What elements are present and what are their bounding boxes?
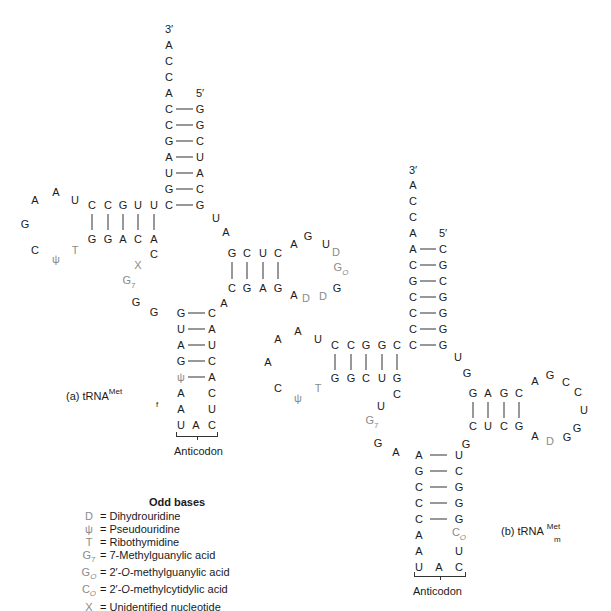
anticodon-loop-base: U bbox=[415, 562, 423, 573]
acceptor-stem-base: C bbox=[165, 200, 173, 211]
five-prime-label: 5′ bbox=[196, 88, 204, 99]
d-arm-base: U bbox=[259, 248, 267, 259]
variable-loop-base: X bbox=[134, 260, 141, 271]
legend-item: G7 = 7-Methylguanylic acid bbox=[78, 549, 252, 566]
d-loop-base: D bbox=[546, 436, 554, 447]
acceptor-stem-base: C bbox=[439, 244, 447, 255]
d-loop-base: U bbox=[580, 405, 588, 416]
t-loop-base: C bbox=[31, 245, 39, 256]
t-loop-base: U bbox=[314, 334, 322, 345]
acceptor-stem-base: G bbox=[196, 104, 205, 115]
anticodon-stem-base: G bbox=[455, 514, 464, 525]
anticodon-stem-base: G bbox=[455, 498, 464, 509]
acceptor-unpaired: C bbox=[409, 212, 417, 223]
t-arm-base: U bbox=[150, 200, 158, 211]
t-arm-base: G bbox=[88, 234, 97, 245]
acceptor-stem-base: C bbox=[409, 340, 417, 351]
anticodon-stem-base: U bbox=[177, 324, 185, 335]
d-arm-base: C bbox=[228, 283, 236, 294]
variable-loop-base: G bbox=[132, 297, 141, 308]
anticodon-stem-base: U bbox=[455, 450, 463, 461]
d-arm-base: C bbox=[243, 248, 251, 259]
legend-item: ψ = Pseudouridine bbox=[78, 523, 252, 536]
acceptor-stem-base: C bbox=[409, 292, 417, 303]
connector-base: A bbox=[222, 227, 229, 238]
acceptor-stem-base: C bbox=[196, 184, 204, 195]
d-loop-base: D bbox=[302, 293, 310, 304]
t-arm-base: C bbox=[362, 373, 370, 384]
legend-item: X = Unidentified nucleotide bbox=[78, 601, 252, 611]
d-arm-base: G bbox=[515, 421, 524, 432]
t-loop-base: A bbox=[264, 357, 271, 368]
acceptor-unpaired: A bbox=[165, 88, 172, 99]
anticodon-label-b: Anticodon bbox=[413, 585, 462, 597]
t-arm-base: G bbox=[378, 340, 387, 351]
t-arm-base: C bbox=[104, 200, 112, 211]
base-pair-bond bbox=[504, 402, 505, 418]
anticodon-loop-base: U bbox=[208, 404, 216, 415]
base-pair-bond bbox=[335, 354, 336, 370]
acceptor-stem-base: A bbox=[409, 244, 416, 255]
anticodon-bracket-b bbox=[414, 572, 466, 577]
t-arm-base: A bbox=[119, 234, 126, 245]
variable-loop-base: A bbox=[392, 447, 399, 458]
d-loop-base: U bbox=[322, 239, 330, 250]
t-loop-base: U bbox=[71, 195, 79, 206]
base-pair-bond bbox=[188, 377, 205, 378]
t-arm-base: C bbox=[134, 234, 142, 245]
trna-b-label-sup: Met bbox=[547, 522, 560, 531]
d-loop-base: G bbox=[333, 283, 342, 294]
t-arm-base: C bbox=[331, 340, 339, 351]
acceptor-unpaired: A bbox=[165, 40, 172, 51]
base-pair-bond bbox=[420, 265, 436, 266]
t-loop-base: A bbox=[294, 326, 301, 337]
legend-description: = 7-Methylguanylic acid bbox=[100, 549, 215, 566]
base-pair-bond bbox=[430, 455, 447, 456]
d-arm-base: G bbox=[243, 283, 252, 294]
anticodon-stem-base: G bbox=[177, 308, 186, 319]
anticodon-loop-base: C bbox=[208, 420, 216, 431]
anticodon-stem-base: A bbox=[208, 324, 215, 335]
d-loop-base: G bbox=[573, 423, 582, 434]
t-arm-base: C bbox=[88, 200, 96, 211]
base-pair-bond bbox=[176, 189, 193, 190]
anticodon-loop-base: C bbox=[455, 562, 463, 573]
base-pair-bond bbox=[92, 214, 93, 230]
base-pair-bond bbox=[278, 262, 279, 279]
acceptor-unpaired: A bbox=[409, 228, 416, 239]
t-arm-base: U bbox=[134, 200, 142, 211]
t-arm-base: G bbox=[104, 234, 113, 245]
odd-bases-legend: Odd bases D = Dihydrouridineψ = Pseudour… bbox=[78, 496, 252, 611]
d-loop-base: G bbox=[546, 370, 555, 381]
anticodon-loop-base: A bbox=[177, 388, 184, 399]
anticodon-loop-base: U bbox=[455, 546, 463, 557]
base-pair-bond bbox=[351, 354, 352, 370]
base-pair-bond bbox=[176, 109, 193, 110]
acceptor-stem-base: G bbox=[439, 308, 448, 319]
base-pair-bond bbox=[397, 354, 398, 370]
acceptor-stem-base: G bbox=[439, 292, 448, 303]
trna-b-label-sub: m bbox=[554, 534, 561, 546]
legend-item: D = Dihydrouridine bbox=[78, 510, 252, 523]
anticodon-stem-base: ψ bbox=[177, 372, 185, 383]
acceptor-stem-base: C bbox=[409, 324, 417, 335]
acceptor-stem-base: G bbox=[439, 324, 448, 335]
anticodon-loop-base: A bbox=[415, 530, 422, 541]
acceptor-stem-base: G bbox=[165, 136, 174, 147]
anticodon-stem-base: C bbox=[415, 514, 423, 525]
d-loop-base: D bbox=[319, 291, 327, 302]
acceptor-stem-base: A bbox=[196, 168, 203, 179]
t-loop-base: ψ bbox=[294, 393, 302, 404]
legend-description: = Pseudouridine bbox=[100, 523, 180, 536]
anticodon-stem-base: C bbox=[208, 356, 216, 367]
anticodon-stem-base: G bbox=[177, 356, 186, 367]
trna-b-label-prefix: (b) tRNA bbox=[501, 525, 544, 537]
d-loop-base: C bbox=[574, 387, 582, 398]
variable-loop-base: G bbox=[150, 307, 159, 318]
base-pair-bond bbox=[176, 125, 193, 126]
base-pair-bond bbox=[420, 313, 436, 314]
t-arm-base: G bbox=[362, 340, 371, 351]
acceptor-stem-base: U bbox=[196, 152, 204, 163]
t-loop-base: T bbox=[315, 383, 322, 394]
variable-loop-base: G7 bbox=[365, 415, 378, 430]
